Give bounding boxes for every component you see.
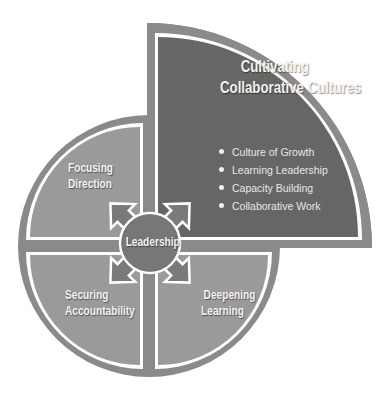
main-quadrant-title: Cultivating Collaborative Cultures [200, 56, 350, 99]
label-line: Deepening [204, 287, 256, 303]
label-line: Direction [68, 176, 112, 192]
main-title-line2: Collaborative Cultures [220, 77, 361, 98]
bullet-item: Collaborative Work [218, 197, 328, 215]
label-securing-accountability: Securing Accountability [65, 287, 155, 320]
bullet-item: Culture of Growth [218, 143, 328, 161]
label-deepening-learning: Deepening Learning [189, 287, 237, 320]
hub-label-text: Leadership [126, 234, 180, 250]
label-line: Securing [65, 287, 108, 303]
bullet-item: Learning Leadership [218, 161, 328, 179]
bullet-item: Capacity Building [218, 179, 328, 197]
hub-label: Leadership [118, 234, 182, 250]
label-line: Accountability [65, 303, 135, 319]
main-title-line1: Cultivating [241, 56, 310, 77]
label-line: Focusing [68, 160, 113, 176]
label-focusing-direction: Focusing Direction [68, 160, 126, 193]
label-line: Learning [201, 303, 244, 319]
main-quadrant-bullets: Culture of Growth Learning Leadership Ca… [218, 143, 328, 215]
